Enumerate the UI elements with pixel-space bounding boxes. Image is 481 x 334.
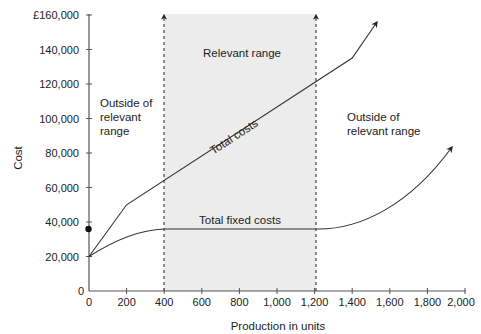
svg-text:relevant: relevant	[100, 111, 142, 123]
svg-text:60,000: 60,000	[45, 182, 79, 194]
svg-text:80,000: 80,000	[45, 147, 79, 159]
y-axis-title: Cost	[12, 145, 24, 169]
svg-text:40,000: 40,000	[45, 216, 79, 228]
svg-text:Outside of: Outside of	[100, 97, 153, 109]
cost-behaviour-chart: £160,000 140,000 120,000 100,000 80,000 …	[0, 0, 481, 334]
total-fixed-costs-label: Total fixed costs	[199, 214, 281, 226]
svg-text:120,000: 120,000	[39, 78, 79, 90]
svg-text:1,600: 1,600	[376, 296, 404, 308]
y-tick-labels: £160,000 140,000 120,000 100,000 80,000 …	[33, 9, 84, 297]
svg-text:600: 600	[193, 296, 211, 308]
svg-text:140,000: 140,000	[39, 44, 79, 56]
svg-text:1,200: 1,200	[301, 296, 329, 308]
x-tick-labels: 0 200 400 600 800 1,000 1,200 1,400 1,60…	[86, 296, 475, 308]
outside-left-label: Outside of relevant range	[100, 97, 153, 137]
outside-right-label: Outside of relevant range	[347, 111, 421, 137]
svg-text:0: 0	[86, 296, 92, 308]
svg-text:800: 800	[230, 296, 248, 308]
svg-text:2,000: 2,000	[447, 296, 475, 308]
svg-text:1,400: 1,400	[338, 296, 366, 308]
svg-text:1,800: 1,800	[414, 296, 442, 308]
svg-text:Outside of: Outside of	[347, 111, 400, 123]
x-axis-title: Production in units	[231, 320, 326, 332]
relevant-range-label: Relevant range	[203, 47, 281, 59]
svg-text:range: range	[100, 125, 129, 137]
svg-text:20,000: 20,000	[45, 251, 79, 263]
svg-text:1,000: 1,000	[263, 296, 291, 308]
svg-text:£160,000: £160,000	[33, 9, 79, 21]
svg-text:0: 0	[78, 285, 84, 297]
svg-text:200: 200	[117, 296, 135, 308]
svg-text:100,000: 100,000	[39, 113, 79, 125]
svg-text:relevant range: relevant range	[347, 125, 421, 137]
svg-text:400: 400	[155, 296, 173, 308]
y-axis-marker-dot	[85, 226, 91, 232]
